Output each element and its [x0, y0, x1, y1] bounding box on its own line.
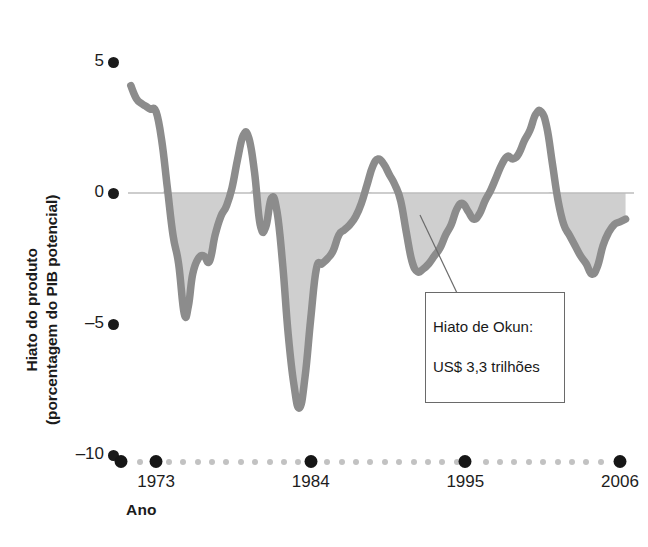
x-axis-minor-dot: [180, 459, 186, 465]
x-axis-minor-dot: [166, 459, 172, 465]
annotation-callout: Hiato de Okun: US$ 3,3 trilhões: [425, 292, 565, 403]
x-axis-minor-dot: [252, 459, 258, 465]
x-axis-minor-dot: [281, 459, 287, 465]
x-axis-minor-dot: [411, 459, 417, 465]
x-axis-minor-dot: [555, 459, 561, 465]
x-tick-label: 1995: [446, 472, 484, 492]
x-axis-origin-dot: [115, 455, 128, 468]
x-tick-dot: [613, 455, 626, 468]
x-axis-minor-dot: [382, 459, 388, 465]
x-axis-minor-dot: [353, 459, 359, 465]
x-axis-minor-dot: [569, 459, 575, 465]
x-axis-minor-dot: [223, 459, 229, 465]
x-axis-minor-dot: [511, 459, 517, 465]
x-tick-dot: [150, 455, 163, 468]
x-axis-minor-dot: [425, 459, 431, 465]
x-tick-label: 1984: [292, 472, 330, 492]
x-axis-minor-dot: [497, 459, 503, 465]
annotation-line-2: US$ 3,3 trilhões: [433, 357, 558, 377]
x-axis-minor-dot: [540, 459, 546, 465]
x-axis-minor-dot: [324, 459, 330, 465]
x-axis-minor-dot: [209, 459, 215, 465]
x-tick-label: 2006: [601, 472, 639, 492]
x-axis-title: Ano: [126, 501, 157, 519]
x-axis-minor-dot: [526, 459, 532, 465]
x-tick-dot: [459, 455, 472, 468]
x-tick-label: 1973: [137, 472, 175, 492]
x-axis-minor-dot: [483, 459, 489, 465]
x-axis-minor-dot: [295, 459, 301, 465]
x-tick-dot: [304, 455, 317, 468]
plot-area: [0, 0, 648, 547]
x-axis-minor-dot: [339, 459, 345, 465]
chart-figure: Hiato do produto (porcentagem do PIB pot…: [0, 0, 648, 547]
x-axis-minor-dot: [267, 459, 273, 465]
x-axis-minor-dot: [439, 459, 445, 465]
x-axis-minor-dot: [238, 459, 244, 465]
x-axis-minor-dot: [598, 459, 604, 465]
x-axis-minor-dot: [583, 459, 589, 465]
x-axis-minor-dot: [137, 459, 143, 465]
x-axis-minor-dot: [195, 459, 201, 465]
x-axis-minor-dot: [396, 459, 402, 465]
x-axis-minor-dot: [367, 459, 373, 465]
annotation-line-1: Hiato de Okun:: [433, 317, 558, 337]
